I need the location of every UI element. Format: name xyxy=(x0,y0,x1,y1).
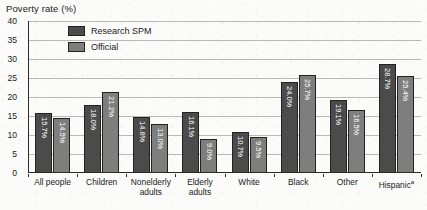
bar-research-spm: 18.0% xyxy=(84,105,101,173)
bar-value-label: 14.5% xyxy=(58,122,66,143)
x-axis-category-label: Hispanica xyxy=(372,178,421,190)
bar-value-label: 15.7% xyxy=(40,117,48,138)
x-axis-labels: All peopleChildrenNonelderlyadultsElderl… xyxy=(28,174,421,208)
y-axis-line xyxy=(28,21,29,173)
y-axis-tick-label: 5 xyxy=(12,149,17,159)
x-axis-tick-mark xyxy=(225,174,226,177)
bar-group: 28.7%25.4% xyxy=(372,21,421,173)
bar-official: 21.2% xyxy=(102,92,119,173)
footnote-marker: a xyxy=(411,179,414,185)
legend-swatch-official xyxy=(68,42,85,52)
bar-official: 14.5% xyxy=(53,118,70,173)
y-axis-tick-label: 0 xyxy=(12,168,17,178)
bar-official: 9.0% xyxy=(200,139,217,173)
x-axis-category-label: Black xyxy=(274,178,323,188)
bar-research-spm: 19.1% xyxy=(330,100,347,173)
bar-official: 9.5% xyxy=(250,137,267,173)
y-axis-tick-label: 10 xyxy=(7,130,17,140)
legend-swatch-research-spm xyxy=(68,26,85,36)
y-axis-tick-label: 40 xyxy=(7,16,17,26)
bar-group: 16.1%9.0% xyxy=(175,21,224,173)
bar-research-spm: 16.1% xyxy=(182,112,199,173)
bar-official: 25.7% xyxy=(299,75,316,173)
bar-value-label: 28.7% xyxy=(384,68,392,89)
x-axis-tick-mark xyxy=(175,174,176,177)
bar-value-label: 9.5% xyxy=(254,141,262,158)
x-axis-tick-mark xyxy=(28,174,29,177)
x-axis-tick-mark xyxy=(421,174,422,177)
bar-value-label: 19.1% xyxy=(335,104,343,125)
bar-value-label: 18.0% xyxy=(89,109,97,130)
chart-legend: Research SPM Official xyxy=(68,25,152,57)
bar-value-label: 25.7% xyxy=(303,79,311,100)
x-axis-category-label: All people xyxy=(28,178,77,188)
bar-research-spm: 14.8% xyxy=(133,117,150,173)
bar-value-label: 25.4% xyxy=(402,80,410,101)
bar-official: 25.4% xyxy=(397,76,414,173)
poverty-rate-bar-chart: Poverty rate (%) 0510152025303540 15.7%1… xyxy=(0,0,427,210)
x-axis-category-label: Elderlyadults xyxy=(175,178,224,197)
y-axis-tick-label: 25 xyxy=(7,73,17,83)
bar-research-spm: 15.7% xyxy=(35,113,52,173)
bar-value-label: 24.0% xyxy=(285,86,293,107)
bar-research-spm: 24.0% xyxy=(281,82,298,173)
x-axis-tick-mark xyxy=(274,174,275,177)
bar-value-label: 10.7% xyxy=(236,136,244,157)
bar-group: 10.7%9.5% xyxy=(225,21,274,173)
x-axis-category-label: Children xyxy=(77,178,126,188)
y-axis-tick-label: 15 xyxy=(7,111,17,121)
bar-value-label: 9.0% xyxy=(205,143,213,160)
x-axis-tick-mark xyxy=(77,174,78,177)
x-axis-tick-mark xyxy=(126,174,127,177)
bar-value-label: 16.1% xyxy=(187,116,195,137)
bar-value-label: 14.8% xyxy=(138,121,146,142)
x-axis-tick-mark xyxy=(323,174,324,177)
bar-official: 16.5% xyxy=(348,110,365,173)
y-axis-tick-label: 30 xyxy=(7,54,17,64)
y-axis-tick-label: 35 xyxy=(7,35,17,45)
x-axis-category-label: Other xyxy=(323,178,372,188)
bar-value-label: 21.2% xyxy=(107,96,115,117)
bar-research-spm: 28.7% xyxy=(379,64,396,173)
x-axis-tick-mark xyxy=(372,174,373,177)
x-axis-category-label: Nonelderlyadults xyxy=(126,178,175,197)
chart-title: Poverty rate (%) xyxy=(6,3,76,14)
legend-label-research-spm: Research SPM xyxy=(91,26,152,36)
legend-item-official: Official xyxy=(68,41,152,52)
x-axis-line xyxy=(28,172,421,173)
bar-value-label: 16.5% xyxy=(353,114,361,135)
bar-research-spm: 10.7% xyxy=(232,132,249,173)
bar-group: 24.0%25.7% xyxy=(274,21,323,173)
legend-item-research-spm: Research SPM xyxy=(68,25,152,36)
y-axis-tick-label: 20 xyxy=(7,92,17,102)
legend-label-official: Official xyxy=(91,42,118,52)
bar-official: 13.0% xyxy=(151,124,168,173)
bar-value-label: 13.0% xyxy=(156,128,164,149)
bar-group: 19.1%16.5% xyxy=(323,21,372,173)
x-axis-category-label: White xyxy=(225,178,274,188)
